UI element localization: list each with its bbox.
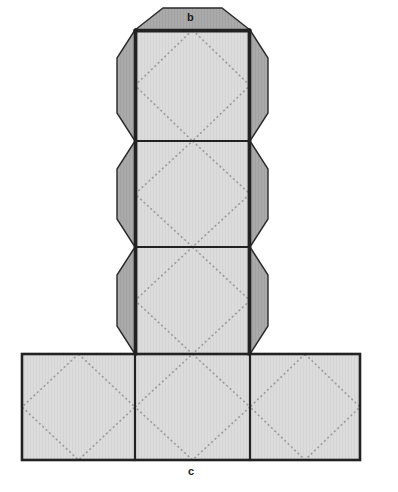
- face-cell-top: [135, 30, 250, 141]
- face-cell-bottom-right: [250, 354, 360, 460]
- flap-left-lower-icon: [117, 247, 135, 354]
- flap-left-upper-icon: [117, 141, 135, 247]
- face-cell-bottom-left: [22, 354, 135, 460]
- label-c: c: [188, 466, 194, 477]
- face-cell-bottom-mid: [135, 354, 250, 460]
- figure-canvas: b c: [0, 0, 398, 492]
- cube-net-diagram: [0, 0, 398, 492]
- face-group: [22, 30, 360, 460]
- flap-right-upper-icon: [250, 141, 268, 247]
- flap-left-top-icon: [117, 30, 135, 141]
- flap-right-lower-icon: [250, 247, 268, 354]
- face-cell-upper-mid: [135, 141, 250, 247]
- flap-right-top-icon: [250, 30, 268, 141]
- label-b: b: [187, 12, 194, 23]
- face-cell-lower-mid: [135, 247, 250, 354]
